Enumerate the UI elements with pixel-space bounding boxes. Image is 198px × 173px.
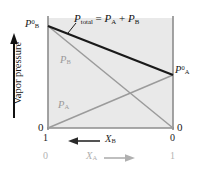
equation-p-total: P (74, 12, 81, 24)
pb-line-label: PB (60, 55, 71, 66)
equation-total-subscript: total (81, 18, 93, 25)
p0b-subscript: B (35, 22, 39, 29)
xb-axis-label: XB (105, 134, 116, 145)
pb-subscript: B (66, 58, 70, 65)
x-axis-tick-xb-left-one: 1 (43, 133, 48, 143)
p0-b-endpoint-label: P0B (25, 19, 39, 30)
x-axis-tick-xa-right-one: 1 (170, 151, 175, 161)
equation-plus: + (116, 12, 128, 24)
p0a-subscript: A (185, 68, 190, 75)
vapor-pressure-raoult-diagram: Vapor pressure Ptotal = PA + PB P0B P0A … (0, 0, 198, 173)
x-axis-tick-xb-right-zero: 0 (170, 133, 175, 143)
ptotal-equation-annotation: Ptotal = PA + PB (74, 13, 139, 25)
pa-subscript: A (64, 103, 69, 110)
y-axis-title: Vapor pressure (13, 31, 24, 115)
xa-axis-label: XA (86, 151, 97, 162)
pa-line-label: PA (58, 100, 69, 111)
equation-equals: = (93, 12, 105, 24)
p0-a-endpoint-label: P0A (175, 65, 189, 76)
equation-p-b: P (128, 12, 135, 24)
xa-right-arrow-icon (104, 154, 135, 162)
equation-b-subscript: B (135, 18, 140, 25)
xa-subscript: A (92, 154, 97, 161)
xb-subscript: B (111, 137, 115, 144)
x-axis-tick-xa-left-zero: 0 (43, 151, 48, 161)
xb-left-arrow-icon (68, 137, 100, 145)
x-axis-right-corner-zero: 0 (177, 122, 183, 133)
